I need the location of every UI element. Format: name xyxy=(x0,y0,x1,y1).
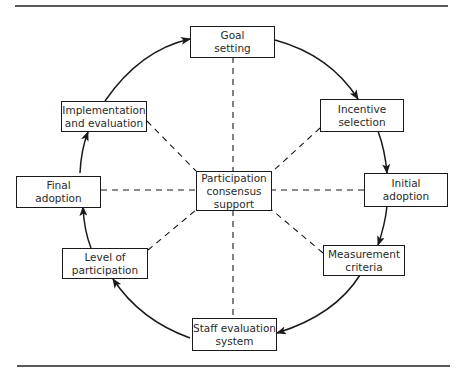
node-staff-evaluation-system: Staff evaluationsystem xyxy=(192,318,277,351)
arrow-final-to-implementation xyxy=(80,132,88,173)
arrow-staff-to-level xyxy=(113,279,190,338)
node-incentive-selection: Incentiveselection xyxy=(320,99,404,132)
node-label: setting xyxy=(214,42,250,55)
node-label: system xyxy=(193,335,276,348)
arrow-level-to-final xyxy=(83,207,91,248)
arrow-incentive-to-initial xyxy=(378,131,387,173)
node-label: Final xyxy=(35,179,81,192)
node-label: Level of xyxy=(72,251,138,264)
node-label: criteria xyxy=(328,261,400,274)
arrow-implementation-to-goal xyxy=(105,39,190,101)
node-label: adoption xyxy=(35,192,81,205)
spoke-level xyxy=(148,210,196,250)
node-label: Goal xyxy=(214,29,250,42)
node-label: consensus xyxy=(201,185,267,198)
arrow-initial-to-measurement xyxy=(378,206,387,245)
spoke-implementation xyxy=(147,121,196,171)
node-label: selection xyxy=(338,116,386,129)
node-final-adoption: Finaladoption xyxy=(16,176,101,208)
spoke-incentive xyxy=(272,128,320,172)
node-level-of-participation: Level ofparticipation xyxy=(62,248,148,279)
node-label: Initial xyxy=(383,177,429,190)
node-implementation-and-evaluation: Implementationand evaluation xyxy=(61,101,147,132)
node-measurement-criteria: Measurementcriteria xyxy=(323,245,405,276)
node-label: Staff evaluation xyxy=(193,322,276,335)
node-label: adoption xyxy=(383,190,429,203)
arrow-goal-to-incentive xyxy=(275,40,358,99)
node-label: participation xyxy=(72,264,138,277)
spoke-measurement xyxy=(272,210,323,253)
node-label: Measurement xyxy=(328,248,400,261)
node-initial-adoption: Initialadoption xyxy=(364,173,448,207)
arrow-measurement-to-staff xyxy=(277,275,360,333)
node-label: Incentive xyxy=(338,103,386,116)
node-label: Participation xyxy=(201,172,267,185)
node-goal-setting: Goalsetting xyxy=(190,26,275,58)
node-participation-consensus-support: Participationconsensussupport xyxy=(196,171,272,211)
node-label: and evaluation xyxy=(62,117,145,130)
node-label: support xyxy=(201,198,267,211)
node-label: Implementation xyxy=(62,104,145,117)
